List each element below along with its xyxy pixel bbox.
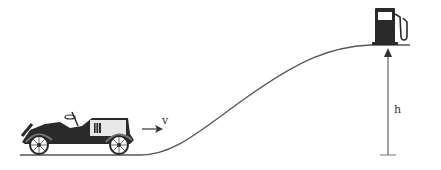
diagram-canvas: v h xyxy=(0,0,441,170)
rear-wheel-icon xyxy=(30,136,48,154)
velocity-arrow-icon xyxy=(142,125,163,133)
height-arrow-icon xyxy=(380,48,396,155)
velocity-label: v xyxy=(161,114,169,127)
height-label: h xyxy=(394,103,401,116)
front-wheel-icon xyxy=(110,136,128,154)
fuel-pump-icon xyxy=(372,8,407,45)
car-icon xyxy=(22,112,134,154)
